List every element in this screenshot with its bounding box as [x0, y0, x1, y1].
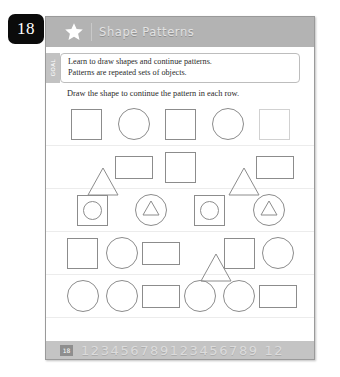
goal-line-2: Patterns are repeated sets of objects. [68, 68, 299, 79]
header-divider [91, 23, 92, 41]
pattern-rows [46, 103, 314, 318]
square-icon [165, 152, 196, 183]
task-instruction: Draw the shape to continue the pattern i… [67, 89, 239, 98]
inner-triangle-icon [142, 200, 160, 220]
circle-icon [223, 280, 255, 312]
worksheet-page: Shape Patterns GOAL Learn to draw shapes… [45, 16, 315, 360]
triangle-in-circle-icon [253, 194, 285, 226]
pattern-cell[interactable] [63, 146, 110, 188]
pattern-cell[interactable] [181, 232, 220, 274]
pattern-cell[interactable] [220, 232, 259, 274]
square-icon [71, 109, 102, 140]
pattern-cell[interactable] [63, 103, 110, 145]
pattern-cell[interactable] [259, 275, 298, 317]
pattern-row-3 [46, 189, 314, 232]
pattern-row-2 [46, 146, 314, 189]
circle-icon [106, 237, 138, 269]
square-icon [67, 238, 98, 269]
inner-circle-icon [200, 201, 219, 220]
pattern-row-4 [46, 232, 314, 275]
page-title: Shape Patterns [99, 25, 194, 39]
goal-callout: GOAL Learn to draw shapes and continue p… [46, 53, 314, 83]
pattern-cell[interactable] [181, 189, 240, 231]
rectangle-icon [142, 242, 180, 265]
footer-digit-strip: 123456789123456789 12 [81, 343, 284, 358]
circle-icon [262, 237, 294, 269]
pattern-cell[interactable] [122, 189, 181, 231]
pattern-cell[interactable] [141, 275, 180, 317]
inner-circle-icon [83, 201, 102, 220]
pattern-cell[interactable] [157, 146, 204, 188]
goal-tab-label: GOAL [50, 59, 56, 76]
pattern-cell[interactable] [141, 232, 180, 274]
goal-line-1: Learn to draw shapes and continue patter… [68, 57, 299, 68]
pattern-cell[interactable] [239, 189, 298, 231]
rectangle-icon [259, 285, 297, 308]
rectangle-icon [115, 156, 153, 179]
pattern-cell[interactable] [63, 232, 102, 274]
pattern-cell[interactable] [110, 103, 157, 145]
square-icon [259, 109, 290, 140]
circle-icon [212, 108, 244, 140]
square-icon [224, 238, 255, 269]
square-icon [165, 109, 196, 140]
pattern-cell[interactable] [251, 103, 298, 145]
circle-in-square-icon [77, 195, 108, 226]
pattern-cell[interactable] [204, 103, 251, 145]
inner-triangle-icon [260, 200, 278, 220]
pattern-cell[interactable] [102, 232, 141, 274]
pattern-cell[interactable] [63, 275, 102, 317]
circle-in-square-icon [194, 195, 225, 226]
circle-icon [67, 280, 99, 312]
pattern-cell[interactable] [63, 189, 122, 231]
pattern-cell[interactable] [259, 232, 298, 274]
worksheet-header: Shape Patterns [46, 17, 314, 47]
pattern-cell[interactable] [157, 103, 204, 145]
pattern-row-5 [46, 275, 314, 318]
page-number-badge: 18 [8, 14, 44, 44]
circle-icon [106, 280, 138, 312]
footer-page-number: 18 [60, 345, 73, 356]
triangle-in-circle-icon [135, 194, 167, 226]
rectangle-icon [142, 285, 180, 308]
goal-text-box: Learn to draw shapes and continue patter… [60, 53, 300, 83]
rectangle-icon [256, 156, 294, 179]
pattern-cell[interactable] [204, 146, 251, 188]
pattern-cell[interactable] [220, 275, 259, 317]
pattern-cell[interactable] [102, 275, 141, 317]
pattern-cell[interactable] [181, 275, 220, 317]
star-icon [63, 21, 85, 43]
circle-icon [118, 108, 150, 140]
worksheet-footer: 18 123456789123456789 12 [46, 341, 314, 359]
goal-tab: GOAL [46, 53, 60, 83]
pattern-row-1 [46, 103, 314, 146]
circle-icon [184, 280, 216, 312]
